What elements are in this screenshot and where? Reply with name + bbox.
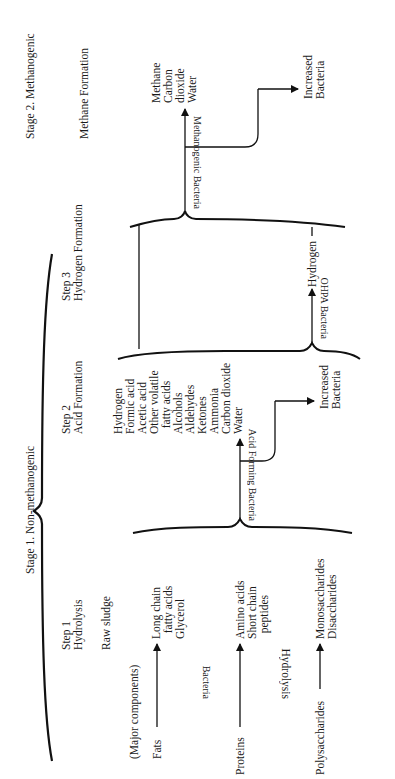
methanogenic-bacteria-label: Methanogenic Bacteria <box>191 116 203 209</box>
increased-bacteria-2: Increased Bacteria <box>302 55 326 99</box>
methane-products-list: Methane Carbon dioxide Water <box>150 63 198 103</box>
anaerobic-digestion-diagram: Stage 1. Non-methanogenic Stage 2. Metha… <box>0 0 395 779</box>
